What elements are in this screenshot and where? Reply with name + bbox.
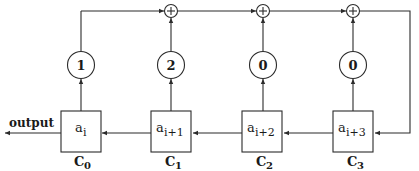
register-c3: a i+3 C 3 (333, 111, 373, 171)
svg-text:2: 2 (266, 160, 273, 171)
svg-text:a: a (75, 120, 83, 135)
register-c1: a i+1 C 1 (151, 111, 191, 171)
svg-text:i+3: i+3 (346, 126, 366, 139)
svg-text:i+1: i+1 (164, 126, 184, 139)
multiplier-value: 0 (348, 58, 357, 73)
multiplier-0: 1 (68, 52, 95, 79)
tap-lines (81, 11, 353, 111)
svg-text:C: C (165, 154, 175, 169)
svg-text:i+2: i+2 (255, 126, 275, 139)
svg-text:a: a (247, 120, 255, 135)
svg-text:C: C (74, 154, 84, 169)
multiplier-1: 2 (158, 52, 185, 79)
lfsr-diagram: 1 2 0 0 a i C 0 a i+1 C 1 a i+2 C 2 a i+… (0, 0, 419, 171)
svg-text:3: 3 (357, 160, 364, 171)
multiplier-3: 0 (340, 52, 367, 79)
svg-text:1: 1 (175, 160, 182, 171)
svg-text:a: a (156, 120, 164, 135)
adder-2 (347, 5, 360, 18)
multiplier-2: 0 (250, 52, 277, 79)
svg-text:i: i (83, 126, 87, 139)
adder-1 (257, 5, 270, 18)
svg-text:0: 0 (84, 160, 91, 171)
register-c2: a i+2 C 2 (242, 111, 282, 171)
svg-text:C: C (256, 154, 266, 169)
svg-text:C: C (347, 154, 357, 169)
multiplier-value: 1 (76, 58, 85, 73)
multiplier-value: 2 (166, 58, 175, 73)
register-c0: a i C 0 (61, 111, 101, 171)
svg-text:a: a (338, 120, 346, 135)
adder-0 (165, 5, 178, 18)
output-label: output (9, 116, 54, 130)
multiplier-value: 0 (258, 58, 267, 73)
